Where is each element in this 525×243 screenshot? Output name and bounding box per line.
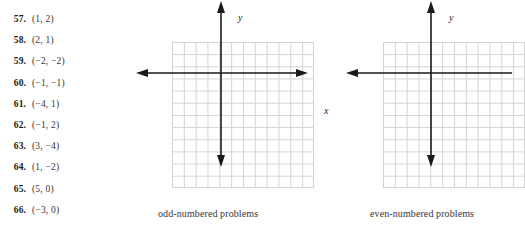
problem-ordered-pair: (1, 2) [32, 14, 54, 24]
problem-number: 65. [0, 184, 26, 194]
problem-ordered-pair: (−3, 0) [32, 205, 59, 215]
problem-number: 59. [0, 56, 26, 66]
problem-ordered-pair: (2, 1) [32, 35, 54, 45]
problem-row: 57.(1, 2) [0, 8, 150, 24]
problem-ordered-pair: (−1, 2) [32, 120, 59, 130]
coordinate-grid-odd[interactable] [172, 42, 314, 188]
problem-number: 64. [0, 162, 26, 172]
problem-row: 60.(−1, −1) [0, 72, 150, 88]
problem-number: 61. [0, 99, 26, 109]
problem-number: 62. [0, 120, 26, 130]
grid-lines-icon [383, 42, 525, 188]
problem-number: 66. [0, 205, 26, 215]
problem-ordered-pair: (−1, −1) [32, 78, 65, 88]
problem-ordered-pair: (5, 0) [32, 184, 54, 194]
coordinate-grid-even[interactable] [383, 42, 525, 188]
problem-row: 64.(1, −2) [0, 156, 150, 172]
problem-row: 63.(3, −4) [0, 135, 150, 151]
y-axis-arrow-up-icon [427, 1, 435, 13]
grid-lines-icon [172, 42, 314, 188]
problem-ordered-pair: (−4, 1) [32, 99, 59, 109]
y-axis-arrow-up-icon [217, 1, 225, 13]
problem-row: 58.(2, 1) [0, 29, 150, 45]
problem-ordered-pair: (3, −4) [32, 141, 59, 151]
y-axis-label: y [449, 12, 453, 23]
problem-number: 63. [0, 141, 26, 151]
problem-row: 62.(−1, 2) [0, 114, 150, 130]
problem-row: 59.(−2, −2) [0, 50, 150, 66]
problem-row: 66.(−3, 0) [0, 199, 150, 215]
problem-number: 58. [0, 35, 26, 45]
problem-row: 65.(5, 0) [0, 178, 150, 194]
problem-number: 57. [0, 14, 26, 24]
problem-list: 57.(1, 2)58.(2, 1)59.(−2, −2)60.(−1, −1)… [0, 0, 150, 243]
problem-number: 60. [0, 78, 26, 88]
y-axis-label: y [238, 12, 242, 23]
figure-odd-numbered-problems: y x odd-numbered problems [150, 0, 350, 243]
figure-caption-even: even-numbered problems [370, 208, 474, 219]
x-axis-label: x [324, 105, 328, 116]
figure-even-numbered-problems: y even-numbered problems [360, 0, 510, 243]
problem-ordered-pair: (−2, −2) [32, 56, 65, 66]
problem-row: 61.(−4, 1) [0, 93, 150, 109]
problem-ordered-pair: (1, −2) [32, 162, 59, 172]
figure-caption-odd: odd-numbered problems [158, 208, 258, 219]
